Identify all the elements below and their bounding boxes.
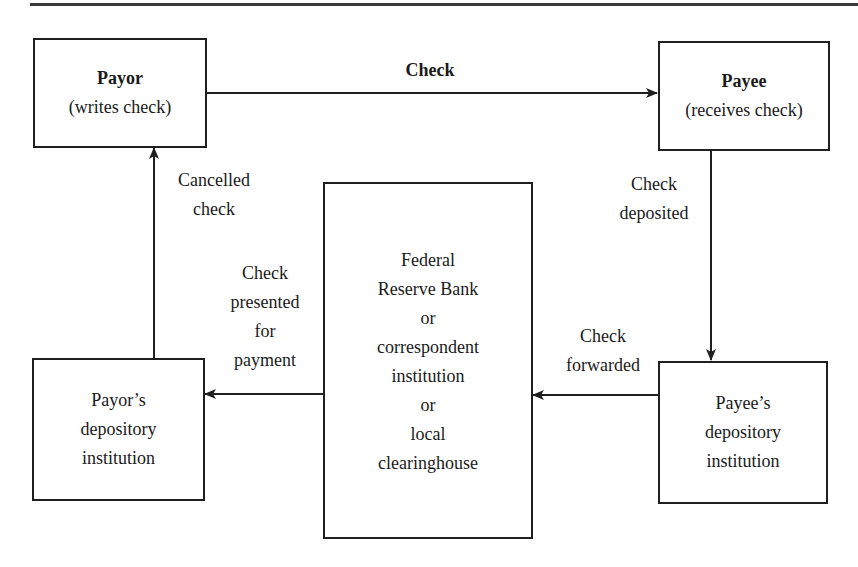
payee-depository-line: institution <box>706 447 779 476</box>
label-check-forwarded: Check forwarded <box>548 322 658 380</box>
payor-depository-line: institution <box>82 444 155 473</box>
node-payee-depository: Payee’s depository institution <box>658 361 828 504</box>
label-check: Check <box>380 56 480 85</box>
clearing-line: local <box>411 420 446 449</box>
node-payor-depository: Payor’s depository institution <box>32 358 205 501</box>
clearing-line: or <box>421 391 436 420</box>
clearing-line: or <box>421 304 436 333</box>
clearing-line: Federal <box>401 246 455 275</box>
label-line: check <box>164 195 264 224</box>
payor-depository-line: Payor’s <box>91 386 146 415</box>
payee-title: Payee <box>722 67 767 96</box>
payor-title: Payor <box>97 64 143 93</box>
label-line: Check <box>210 259 320 288</box>
label-line: Check <box>548 322 658 351</box>
clearing-line: institution <box>391 362 464 391</box>
payor-subtitle: (writes check) <box>69 93 171 122</box>
label-line: deposited <box>600 199 708 228</box>
label-line: forwarded <box>548 351 658 380</box>
node-payee: Payee (receives check) <box>658 41 830 151</box>
clearing-line: correspondent <box>377 333 479 362</box>
payee-depository-line: depository <box>705 418 781 447</box>
node-payor: Payor (writes check) <box>33 38 207 148</box>
label-line: Cancelled <box>164 166 264 195</box>
clearing-line: Reserve Bank <box>378 275 478 304</box>
payee-subtitle: (receives check) <box>685 96 802 125</box>
label-line: payment <box>210 346 320 375</box>
label-line: presented <box>210 288 320 317</box>
label-cancelled-check: Cancelled check <box>164 166 264 224</box>
node-clearing-institution: Federal Reserve Bank or correspondent in… <box>323 182 533 539</box>
label-check-presented: Check presented for payment <box>210 259 320 375</box>
payor-depository-line: depository <box>81 415 157 444</box>
payee-depository-line: Payee’s <box>716 389 771 418</box>
label-line: for <box>210 317 320 346</box>
clearing-line: clearinghouse <box>378 449 478 478</box>
label-check-deposited: Check deposited <box>600 170 708 228</box>
label-line: Check <box>600 170 708 199</box>
